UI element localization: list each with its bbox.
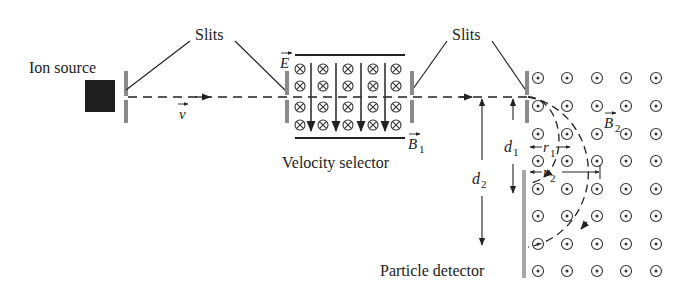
svg-text:r: r — [543, 139, 549, 155]
svg-text:E: E — [279, 55, 289, 71]
ion-source — [85, 80, 115, 112]
velocity-selector — [285, 55, 414, 138]
leader-line — [492, 41, 527, 92]
leader-line — [413, 41, 447, 89]
slits-label-left: Slits — [195, 26, 223, 43]
svg-text:2: 2 — [615, 122, 621, 134]
mass-spectrometer-diagram: Ion source Slits Slits v — [0, 0, 694, 286]
svg-text:1: 1 — [550, 147, 556, 159]
svg-text:1: 1 — [513, 146, 519, 158]
r2-dimension: r 2 — [530, 164, 600, 184]
svg-text:B: B — [408, 136, 417, 152]
leader-line — [126, 41, 190, 90]
b2-label: B 2 — [604, 113, 621, 134]
particle-detector-label: Particle detector — [380, 262, 485, 279]
particle-detector — [522, 170, 526, 278]
ion-source-label: Ion source — [29, 59, 96, 76]
svg-text:v: v — [179, 106, 186, 122]
b1-label: B 1 — [408, 134, 425, 155]
svg-text:2: 2 — [481, 178, 487, 190]
velocity-selector-label: Velocity selector — [282, 154, 390, 172]
svg-text:1: 1 — [419, 143, 425, 155]
svg-text:2: 2 — [550, 172, 556, 184]
svg-text:d: d — [504, 138, 513, 155]
electric-field-label: E — [279, 53, 292, 71]
svg-text:r: r — [543, 164, 549, 180]
d1-dimension: d 1 — [504, 99, 519, 193]
d2-dimension: d 2 — [472, 99, 487, 245]
slits-label-right: Slits — [452, 26, 480, 43]
trajectory-r2-arrow — [581, 222, 587, 229]
svg-text:d: d — [472, 170, 481, 187]
slit-1 — [124, 71, 128, 123]
svg-text:B: B — [604, 115, 613, 131]
velocity-label: v — [178, 104, 188, 122]
